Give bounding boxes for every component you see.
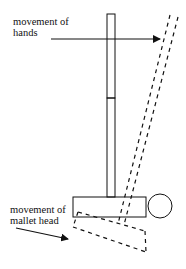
hands-label-line2: hands [13,27,69,38]
hands-label: movement of hands [13,16,69,38]
mallet-swing-diagram [0,0,186,269]
upright-mallet-shaft-lower [107,98,115,197]
tilted-dashed-mallet-head [73,212,146,252]
mallet-head-arrow [16,228,68,239]
ball [148,194,172,218]
upright-mallet-head [73,197,146,217]
upright-mallet-shaft [107,14,115,98]
hands-label-line1: movement of [13,16,69,27]
tilted-dashed-mallet-shaft [118,15,178,225]
mallet-head-label-line2: mallet head [10,215,66,226]
mallet-head-label: movement of mallet head [10,204,66,226]
mallet-head-label-line1: movement of [10,204,66,215]
